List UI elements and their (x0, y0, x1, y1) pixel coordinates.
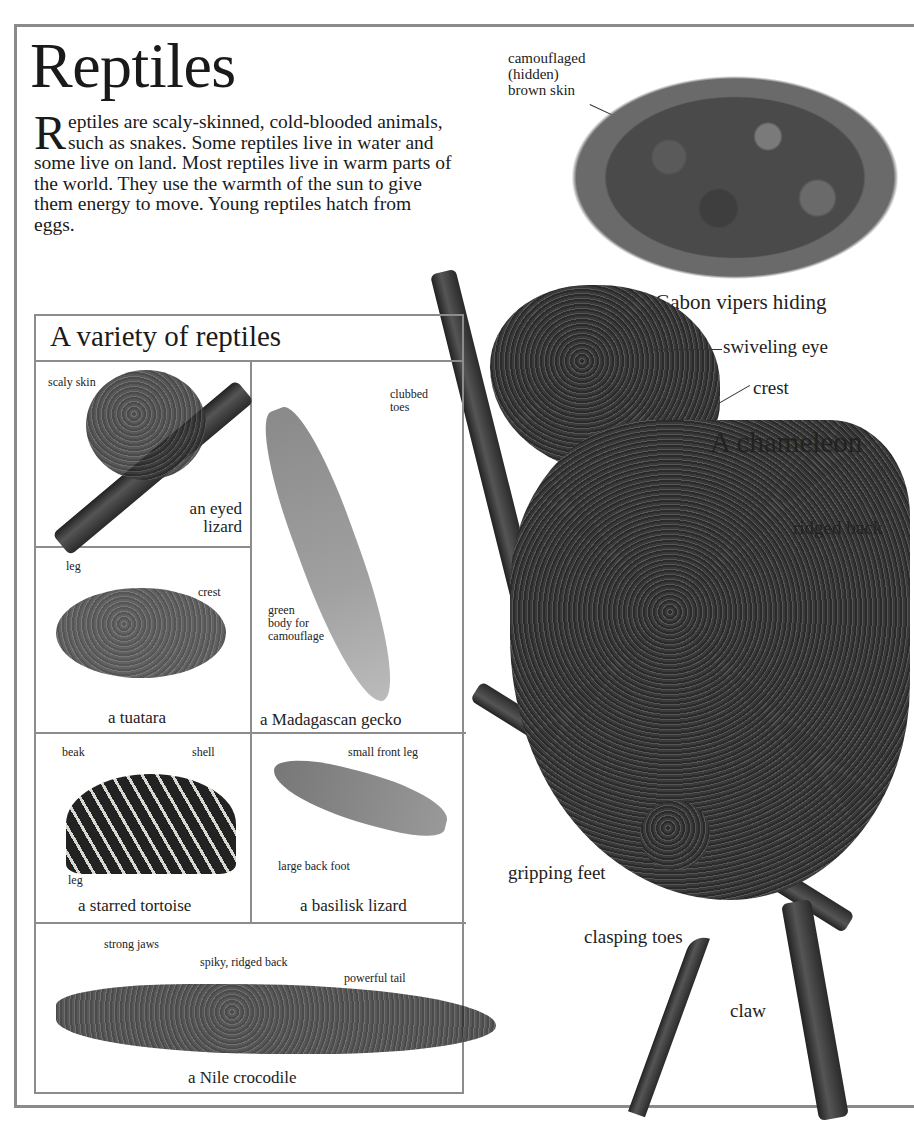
chameleon-foot (640, 800, 710, 870)
label-powerful-tail: powerful tail (344, 972, 406, 985)
label-strong-jaws: strong jaws (104, 938, 159, 951)
label-line: toes (390, 401, 428, 414)
gabon-label-line: brown skin (508, 82, 585, 98)
page-title: Reptiles (30, 34, 236, 98)
label-shell: shell (192, 746, 215, 759)
crocodile-photo (56, 984, 496, 1054)
cell-eyed-lizard: scaly skin an eyed lizard (36, 360, 252, 548)
caption-tuatara: a tuatara (108, 708, 166, 728)
label-ridged-back: ridged back (793, 517, 882, 539)
label-large-back-foot: large back foot (278, 860, 350, 873)
cell-basilisk-lizard: small front leg large back foot a basili… (250, 734, 466, 924)
drop-cap: R (34, 114, 66, 152)
label-clasping-toes: clasping toes (584, 926, 683, 948)
label-spiky-ridged-back: spiky, ridged back (200, 956, 288, 969)
intro-paragraph: Reptiles are scaly-skinned, cold-blooded… (34, 112, 454, 235)
gabon-vipers-photo (570, 75, 900, 280)
gabon-label-line: camouflaged (508, 50, 585, 66)
caption-madagascan-gecko: a Madagascan gecko (260, 710, 402, 730)
cell-madagascan-gecko: clubbed toes green body for camouflage a… (250, 360, 466, 734)
label-swiveling-eye: swiveling eye (723, 336, 828, 358)
caption-basilisk-lizard: a basilisk lizard (300, 896, 407, 916)
label-clubbed-toes: clubbed toes (390, 388, 428, 414)
label-crest: crest (198, 586, 221, 599)
label-leg: leg (68, 874, 83, 887)
tortoise-photo (66, 774, 236, 874)
label-small-front-leg: small front leg (348, 746, 418, 759)
eyed-lizard-photo (86, 370, 206, 480)
label-claw: claw (730, 1000, 766, 1022)
tuatara-photo (56, 588, 226, 678)
cell-starred-tortoise: beak shell leg a starred tortoise (36, 734, 252, 924)
label-gripping-feet: gripping feet (508, 862, 606, 884)
label-crest: crest (753, 377, 789, 399)
label-scaly-skin: scaly skin (48, 376, 96, 389)
panel-title: A variety of reptiles (50, 320, 281, 353)
caption-nile-crocodile: a Nile crocodile (188, 1068, 297, 1088)
gabon-label: camouflaged (hidden) brown skin (508, 50, 585, 98)
caption-line: an eyed (190, 500, 242, 518)
label-line: camouflage (268, 630, 324, 643)
variety-panel: A variety of reptiles scaly skin an eyed… (34, 314, 464, 1094)
label-green-body: green body for camouflage (268, 604, 324, 643)
panel-header: A variety of reptiles (36, 316, 462, 362)
chameleon-caption: A chameleon (710, 426, 862, 459)
gabon-label-line: (hidden) (508, 66, 585, 82)
caption-line: lizard (190, 518, 242, 536)
cell-nile-crocodile: strong jaws spiky, ridged back powerful … (36, 924, 466, 1094)
intro-text: eptiles are scaly-skinned, cold-blooded … (34, 111, 452, 235)
label-beak: beak (62, 746, 85, 759)
cell-tuatara: leg crest a tuatara (36, 548, 252, 734)
gecko-photo (249, 399, 411, 711)
caption-starred-tortoise: a starred tortoise (78, 896, 191, 916)
basilisk-photo (267, 751, 454, 843)
label-leg: leg (66, 560, 81, 573)
leader-line (650, 349, 722, 350)
caption-eyed-lizard: an eyed lizard (190, 500, 242, 536)
